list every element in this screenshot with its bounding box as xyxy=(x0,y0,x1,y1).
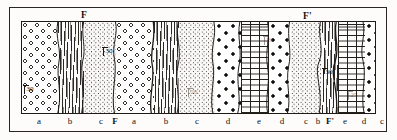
dip-tick-icon xyxy=(348,91,349,100)
unit-label-fault-f-prime: F' xyxy=(326,116,334,126)
unit-label-c1: c xyxy=(99,116,103,126)
unit-label-c2: c xyxy=(195,116,199,126)
dip-annotation-5: 30 xyxy=(323,68,333,77)
dip-annotation-4: 20 xyxy=(264,36,274,45)
unit-band-b1 xyxy=(58,22,84,113)
dip-tick-icon xyxy=(188,88,189,97)
unit-label-b3: b xyxy=(316,116,321,126)
unit-label-e2: e xyxy=(343,116,347,126)
unit-band-d1 xyxy=(215,22,241,113)
fault-label-f-prime: F' xyxy=(303,11,312,21)
unit-label-a1: a xyxy=(37,116,41,126)
unit-band-a1 xyxy=(22,22,58,113)
geologic-cross-section-figure: F F' xyxy=(0,0,397,140)
dip-tick-icon xyxy=(24,85,25,94)
dip-annotation-6: 25 xyxy=(348,91,358,100)
unit-band-b2 xyxy=(154,22,179,113)
unit-label-c3: c xyxy=(304,116,308,126)
unit-label-fault-f: F xyxy=(112,116,118,126)
unit-label-a2: a xyxy=(132,116,136,126)
dip-annotation-2: 30 xyxy=(103,47,113,56)
unit-label-d3: d xyxy=(362,116,367,126)
unit-label-e1: e xyxy=(257,116,261,126)
dip-tick-icon xyxy=(103,47,104,56)
fault-label-f: F xyxy=(81,10,87,20)
unit-band-a2 xyxy=(116,22,154,113)
unit-label-b1: b xyxy=(68,116,73,126)
unit-label-c4: c xyxy=(380,116,384,126)
unit-label-d2: d xyxy=(280,116,285,126)
dip-annotation-1: 30 xyxy=(24,85,34,94)
unit-band-d3 xyxy=(365,22,376,113)
unit-label-d1: d xyxy=(226,116,231,126)
dip-annotation-3: 20 xyxy=(188,88,198,97)
dip-tick-icon xyxy=(323,68,324,77)
unit-label-b2: b xyxy=(164,116,169,126)
unit-band-c1 xyxy=(84,22,116,113)
unit-band-c3 xyxy=(291,22,322,113)
dip-tick-icon xyxy=(264,36,265,45)
unit-band-c2 xyxy=(179,22,215,113)
